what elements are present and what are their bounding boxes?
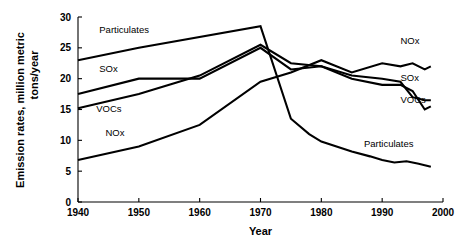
y-axis-title-line1: Emission rates, million metric: [14, 32, 26, 188]
series-label-right-nox: NOx: [400, 35, 419, 46]
x-tick-label-1950: 1950: [128, 207, 151, 218]
y-tick-label-30: 30: [60, 12, 72, 23]
series-label-left-vocs: VOCs: [96, 103, 122, 114]
x-tick-label-1940: 1940: [67, 207, 90, 218]
x-tick-label-1970: 1970: [249, 207, 272, 218]
series-label-left-particulates: Particulates: [99, 24, 149, 35]
y-axis-title-line2: tons/year: [28, 50, 40, 100]
y-tick-label-25: 25: [60, 42, 72, 53]
x-axis-title: Year: [249, 225, 273, 237]
series-inline-labels: ParticulatesSOxVOCsNOxNOxSOxVOCsParticul…: [96, 24, 426, 149]
series-label-right-sox: SOx: [400, 72, 419, 83]
x-axis-tick-labels: 1940195019601970198019902000: [67, 207, 455, 218]
series-label-right-particulates: Particulates: [364, 138, 414, 149]
series-label-right-vocs: VOCs: [400, 94, 426, 105]
x-tick-label-2000: 2000: [432, 207, 455, 218]
y-tick-label-5: 5: [65, 166, 71, 177]
y-axis-ticks: [78, 17, 82, 202]
y-tick-label-15: 15: [60, 104, 72, 115]
y-tick-label-0: 0: [65, 197, 71, 208]
x-tick-label-1990: 1990: [371, 207, 394, 218]
series-line-sox: [78, 48, 431, 100]
series-label-left-nox: NOx: [105, 127, 124, 138]
series-line-vocs: [78, 45, 431, 110]
y-tick-label-20: 20: [60, 73, 72, 84]
y-tick-label-10: 10: [60, 135, 72, 146]
chart-canvas: 051015202530 194019501960197019801990200…: [0, 0, 473, 246]
series-label-left-sox: SOx: [99, 63, 118, 74]
x-axis-ticks: [78, 198, 443, 202]
emissions-line-chart: 051015202530 194019501960197019801990200…: [0, 0, 473, 246]
x-tick-label-1980: 1980: [310, 207, 333, 218]
y-axis-tick-labels: 051015202530: [60, 12, 72, 208]
x-tick-label-1960: 1960: [189, 207, 212, 218]
